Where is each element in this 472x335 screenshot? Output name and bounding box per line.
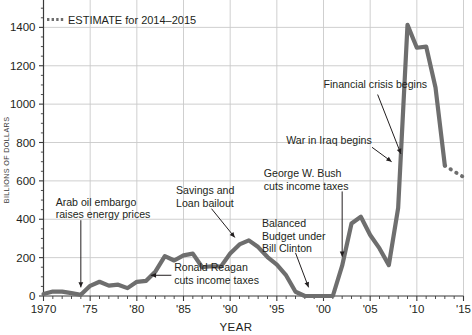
deficit-line-chart: 0200400600800100012001400 1970'75'80'85'… [0, 0, 472, 335]
annotation-text: Ronald Reagancuts income taxes [174, 261, 259, 286]
legend-label-estimate: ESTIMATE for 2014–2015 [68, 14, 196, 26]
x-tick-label: '90 [223, 303, 238, 315]
x-tick-label: '95 [269, 303, 284, 315]
y-tick-label: 0 [29, 290, 35, 302]
x-axis-label: YEAR [220, 321, 253, 333]
x-tick-label: '80 [129, 303, 144, 315]
annotation-text: Financial crisis begins [324, 78, 428, 90]
annotation-text: Savings andLoan bailout [176, 184, 234, 209]
x-tick-label: '00 [316, 303, 331, 315]
y-tick-label: 1200 [10, 60, 36, 72]
y-tick-label: 400 [16, 213, 35, 225]
x-tick-label: '05 [363, 303, 378, 315]
y-tick-label: 800 [16, 137, 35, 149]
x-tick-label: '10 [409, 303, 424, 315]
annotation-text: George W. Bushcuts income taxes [264, 167, 349, 192]
x-tick-label: '75 [83, 303, 98, 315]
x-tick-label: 1970 [31, 303, 57, 315]
y-tick-label: 1000 [10, 98, 36, 110]
annotation-text: Arab oil embargoraises energy prices [56, 196, 151, 221]
chart-figure: 0200400600800100012001400 1970'75'80'85'… [0, 0, 472, 335]
x-tick-label: '15 [456, 303, 471, 315]
legend-entry-estimate: ESTIMATE for 2014–2015 [47, 14, 196, 26]
x-tick-label: '85 [176, 303, 191, 315]
y-tick-label: 200 [16, 252, 35, 264]
y-axis-label: BILLIONS OF DOLLARS [2, 117, 11, 204]
annotation-text: War in Iraq begins [286, 134, 372, 146]
y-tick-label: 1400 [10, 21, 36, 33]
chart-legend: ESTIMATE for 2014–2015 [47, 14, 196, 26]
y-tick-label: 600 [16, 175, 35, 187]
